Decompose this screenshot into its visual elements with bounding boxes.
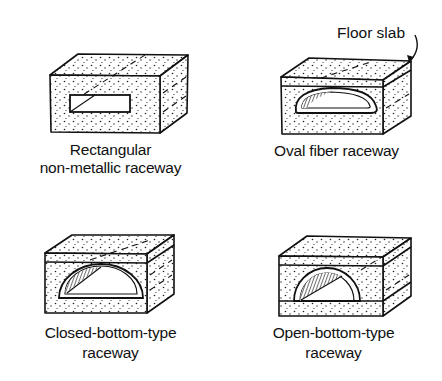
caption-open-bottom: Open-bottom-type raceway [223,324,442,362]
caption-oval: Oval fiber raceway [226,142,442,160]
caption-line-1: Oval fiber raceway [226,142,442,160]
panel-oval-fiber-raceway: Floor slab Oval fiber raceway [221,0,442,190]
caption-line-2: raceway [0,344,221,362]
floor-slab-arrow-icon [411,35,417,60]
caption-line-1: Closed-bottom-type [0,324,221,342]
caption-closed-bottom: Closed-bottom-type raceway [0,324,221,362]
panel-rectangular-raceway: Rectangular non-metallic raceway [0,0,221,190]
panel-closed-bottom-raceway: Closed-bottom-type raceway [0,190,221,381]
caption-line-1: Open-bottom-type [223,324,442,342]
panel-open-bottom-raceway: Open-bottom-type raceway [221,190,442,381]
caption-line-1: Rectangular [0,141,221,159]
caption-line-2: raceway [223,344,442,362]
floor-slab-callout-label: Floor slab [337,24,405,42]
caption-rectangular: Rectangular non-metallic raceway [0,141,221,177]
caption-line-2: non-metallic raceway [0,159,221,177]
oval-raceway-block-drawing [221,0,442,190]
